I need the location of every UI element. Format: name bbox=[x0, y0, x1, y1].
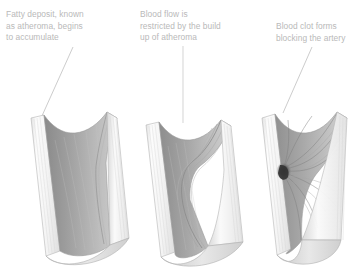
artery-stage-3 bbox=[262, 112, 347, 264]
artery-stage-2 bbox=[146, 120, 243, 266]
artery-stage-1 bbox=[31, 112, 129, 265]
artery-illustrations bbox=[0, 0, 361, 279]
leader-line-3 bbox=[283, 47, 312, 113]
leader-line-1 bbox=[42, 47, 74, 117]
artery-1-wall-right bbox=[107, 112, 129, 245]
atherosclerosis-diagram: Fatty deposit, known as atheroma, begins… bbox=[0, 0, 361, 279]
leader-lines bbox=[42, 46, 313, 123]
